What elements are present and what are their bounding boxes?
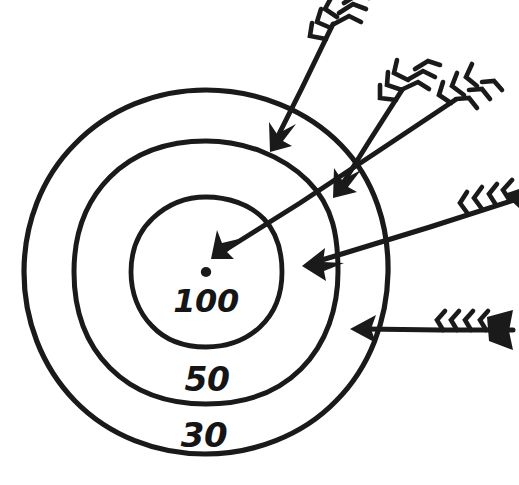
arrow-1-shaft — [275, 24, 333, 142]
arrow-1-fletching — [310, 0, 369, 39]
inner-ring-score-label: 100 — [173, 282, 239, 320]
arrow-5-fletching — [437, 311, 488, 330]
archery-target-figure: 100 50 30 — [0, 0, 519, 485]
arrow-2-fletching — [380, 60, 440, 100]
arrow-5-tail-tip — [487, 310, 513, 350]
middle-ring-score-label: 50 — [185, 360, 230, 399]
outer-ring-score-label: 30 — [181, 415, 227, 455]
arrow-3-fletching — [439, 64, 502, 108]
arrow-2 — [333, 60, 440, 198]
center-dot — [201, 267, 211, 277]
arrow-1 — [269, 0, 369, 152]
figure-canvas: 100 50 30 — [0, 0, 519, 485]
target-rings — [24, 90, 388, 454]
